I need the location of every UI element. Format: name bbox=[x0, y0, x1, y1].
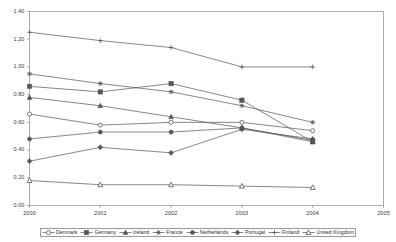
legend-item-label: Netherlands bbox=[200, 229, 229, 235]
y-axis-tick-label: 1.20 bbox=[0, 36, 25, 42]
legend-marker-icon bbox=[119, 229, 132, 236]
series-netherlands bbox=[27, 126, 314, 143]
y-axis-tick-label: 0.60 bbox=[0, 119, 25, 125]
legend-item-netherlands[interactable]: Netherlands bbox=[184, 229, 230, 236]
y-axis-tick-label: 1.40 bbox=[0, 8, 25, 14]
y-axis-tick-label: 0.20 bbox=[0, 174, 25, 180]
legend-item-germany[interactable]: Germany bbox=[79, 229, 118, 236]
legend-marker-icon bbox=[42, 229, 55, 236]
x-axis-tick-label: 2003 bbox=[228, 210, 256, 216]
line-chart: 0.000.200.400.600.801.001.201.4020002001… bbox=[0, 0, 396, 242]
legend-item-label: Denmark bbox=[56, 229, 77, 235]
legend-item-label: Ireland bbox=[133, 229, 149, 235]
series-finland bbox=[27, 30, 315, 69]
series-ireland bbox=[27, 95, 315, 144]
y-axis-tick-label: 0.00 bbox=[0, 202, 25, 208]
legend-marker-icon bbox=[152, 229, 165, 236]
x-axis-tick-label: 2005 bbox=[370, 210, 396, 216]
x-axis-tick-label: 2000 bbox=[16, 210, 44, 216]
plot-area bbox=[0, 0, 396, 242]
y-axis-tick-label: 1.00 bbox=[0, 63, 25, 69]
y-axis-tick-label: 0.80 bbox=[0, 91, 25, 97]
x-axis-tick-label: 2004 bbox=[299, 210, 327, 216]
legend-item-united-kingdom[interactable]: United Kingdom bbox=[301, 229, 356, 236]
x-axis-tick-label: 2001 bbox=[86, 210, 114, 216]
legend-item-label: United Kingdom bbox=[316, 229, 354, 235]
series-united-kingdom bbox=[27, 178, 315, 190]
plot-frame bbox=[30, 12, 384, 206]
legend-item-finland[interactable]: Finland bbox=[267, 229, 301, 236]
axis-ticks bbox=[27, 12, 384, 209]
legend-item-portugal[interactable]: Portugal bbox=[230, 229, 267, 236]
legend-item-ireland[interactable]: Ireland bbox=[118, 229, 151, 236]
data-series-group bbox=[27, 30, 315, 190]
legend-item-denmark[interactable]: Denmark bbox=[40, 229, 78, 236]
legend-item-france[interactable]: France bbox=[151, 229, 184, 236]
legend-marker-icon bbox=[231, 229, 244, 236]
legend-marker-icon bbox=[302, 229, 315, 236]
legend-item-label: France bbox=[166, 229, 182, 235]
y-axis-tick-label: 0.40 bbox=[0, 146, 25, 152]
chart-legend: DenmarkGermanyIrelandFranceNetherlandsPo… bbox=[40, 228, 356, 237]
legend-item-label: Finland bbox=[282, 229, 299, 235]
legend-item-label: Germany bbox=[94, 229, 116, 235]
legend-marker-icon bbox=[268, 229, 281, 236]
legend-marker-icon bbox=[186, 229, 199, 236]
legend-marker-icon bbox=[80, 229, 93, 236]
legend-item-label: Portugal bbox=[245, 229, 265, 235]
x-axis-tick-label: 2002 bbox=[157, 210, 185, 216]
